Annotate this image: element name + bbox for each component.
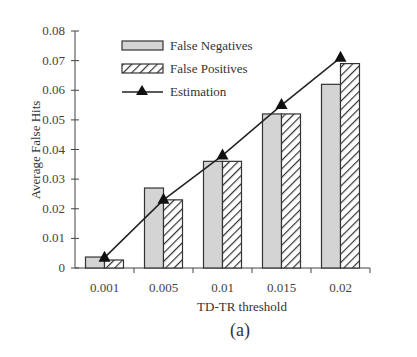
bar-chart: 00.010.020.030.040.050.060.070.080.0010.… <box>0 0 417 357</box>
legend-swatch-false-positives <box>122 64 163 73</box>
bar-false-positives <box>341 64 360 268</box>
x-tick-label: 0.02 <box>329 280 352 295</box>
y-tick-label: 0.04 <box>42 142 65 157</box>
triangle-marker-icon <box>276 98 288 109</box>
triangle-marker-icon <box>99 251 111 262</box>
bar-false-positives <box>164 200 183 268</box>
x-tick-label: 0.01 <box>211 280 234 295</box>
y-tick-label: 0.03 <box>42 171 65 186</box>
bar-false-positives <box>223 161 242 268</box>
y-tick-label: 0 <box>59 260 66 275</box>
legend-label-false-positives: False Positives <box>170 61 248 76</box>
legend-label-false-negatives: False Negatives <box>170 38 253 53</box>
legend: False NegativesFalse PositivesEstimation <box>122 38 253 99</box>
bar-false-negatives <box>263 114 282 268</box>
y-tick-label: 0.07 <box>42 53 65 68</box>
y-tick-label: 0.02 <box>42 201 65 216</box>
y-tick-label: 0.06 <box>42 82 65 97</box>
x-axis-title: TD-TR threshold <box>197 299 287 314</box>
x-tick-label: 0.015 <box>267 280 296 295</box>
y-tick-label: 0.08 <box>42 23 65 38</box>
y-tick-label: 0.05 <box>42 112 65 127</box>
x-tick-label: 0.005 <box>149 280 178 295</box>
legend-label-estimation: Estimation <box>170 84 227 99</box>
triangle-marker-icon <box>335 51 347 62</box>
legend-swatch-false-negatives <box>122 41 163 50</box>
triangle-marker-icon <box>136 85 148 95</box>
figure-caption: (a) <box>230 320 250 341</box>
x-tick-label: 0.001 <box>90 280 119 295</box>
y-axis-title: Average False Hits <box>28 101 43 200</box>
triangle-marker-icon <box>217 148 229 159</box>
bar-false-negatives <box>204 161 223 268</box>
y-tick-label: 0.01 <box>42 230 65 245</box>
bar-false-positives <box>282 114 301 268</box>
bar-false-negatives <box>322 84 341 268</box>
